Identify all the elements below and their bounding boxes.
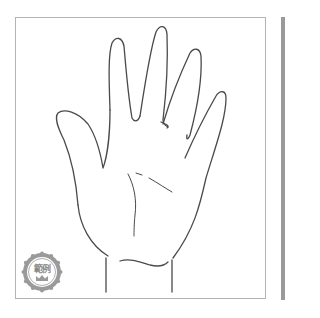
palm-line-head — [136, 173, 172, 192]
wrist-crease — [120, 260, 168, 266]
middle-finger-outline — [140, 27, 168, 127]
scrollbar[interactable] — [281, 17, 285, 300]
palm-left-edge — [78, 205, 108, 256]
index-finger-outline — [109, 38, 140, 120]
pinky-outline — [173, 92, 226, 258]
badge-label: 範例 — [21, 262, 63, 275]
thumb-outline — [56, 110, 110, 205]
sample-badge: 範例 — [21, 251, 63, 293]
palm-line-life — [128, 174, 136, 236]
